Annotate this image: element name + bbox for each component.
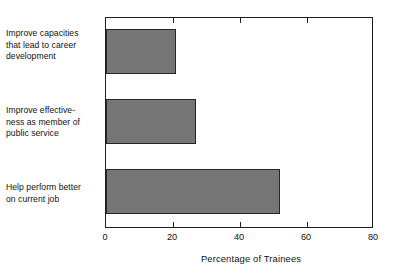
category-label-line: Improve effective-	[6, 105, 97, 117]
category-label-line: Improve capacities	[6, 28, 97, 40]
x-axis-tick-label: 0	[102, 231, 107, 243]
bar	[106, 169, 280, 214]
x-axis-tick-mark	[240, 222, 241, 227]
x-axis-tick-mark	[307, 222, 308, 227]
category-label-improve-effectiveness: Improve effective- ness as member of pub…	[6, 105, 97, 140]
bar	[106, 29, 176, 74]
x-axis-tick-mark	[173, 18, 174, 23]
x-axis-title-text: Percentage of Trainees	[201, 253, 301, 265]
category-label-line: on current job	[6, 194, 97, 206]
bar-chart: Improve capacities that lead to career d…	[0, 0, 402, 279]
x-axis-title: Percentage of Trainees	[0, 253, 402, 265]
x-axis-tick-label: 20	[167, 231, 177, 243]
x-axis-tick-mark	[307, 18, 308, 23]
category-label-improve-capacities: Improve capacities that lead to career d…	[6, 28, 97, 63]
category-label-help-perform-better: Help perform better on current job	[6, 182, 97, 205]
category-label-line: ness as member of	[6, 117, 97, 129]
category-label-line: development	[6, 51, 97, 63]
category-label-line: that lead to career	[6, 40, 97, 52]
bar	[106, 99, 196, 144]
x-axis-tick-mark	[173, 222, 174, 227]
x-axis-tick-mark	[240, 18, 241, 23]
category-label-line: Help perform better	[6, 182, 97, 194]
x-axis-tick-label: 40	[234, 231, 244, 243]
category-label-line: public service	[6, 128, 97, 140]
x-axis-tick-label: 80	[368, 231, 378, 243]
x-axis-tick-labels: 020406080	[0, 231, 402, 247]
plot-area	[105, 17, 373, 228]
x-axis-tick-label: 60	[301, 231, 311, 243]
